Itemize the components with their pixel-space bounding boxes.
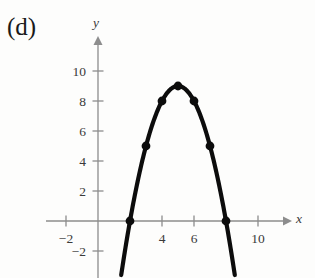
x-axis-label: x [295,211,302,226]
y-tick-label-4: 4 [79,154,86,169]
data-point [174,82,183,91]
y-tick-label-2: 2 [79,184,86,199]
y-tick-label-6: 6 [79,124,86,139]
x-tick-label-4: 4 [159,231,166,246]
x-tick-label-6: 6 [191,231,198,246]
data-point [158,97,167,106]
figure-panel: (d) −2 4 6 10 10 8 6 [0,0,315,278]
data-points [126,82,231,226]
y-tick-label-8: 8 [79,94,86,109]
x-axis-arrow-icon [283,217,292,226]
data-point [206,142,215,151]
data-point [126,217,135,226]
y-axis-arrow-icon [94,36,103,45]
y-tick-label-10: 10 [73,64,87,79]
parabola-curve [121,86,235,275]
data-point [222,217,231,226]
y-axis-label: y [91,15,99,30]
data-point [142,142,151,151]
y-tick-label--2: −2 [72,244,86,259]
parabola-plot: −2 4 6 10 10 8 6 4 2 −2 x y [0,0,315,278]
data-point [190,97,199,106]
x-tick-label-10: 10 [251,231,265,246]
